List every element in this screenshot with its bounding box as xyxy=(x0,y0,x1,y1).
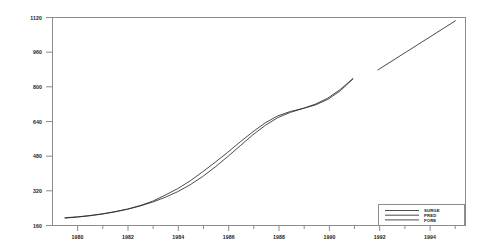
y-axis-labels: 1120 960 800 640 480 320 160 xyxy=(30,15,42,229)
series-line-pred xyxy=(65,79,353,218)
x-axis-labels: 1980 1982 1984 1986 1988 1990 1992 1994 xyxy=(72,234,437,240)
y-tick-label: 480 xyxy=(33,153,42,159)
legend: SURGE PRED FORE xyxy=(379,205,465,226)
y-tick-label: 800 xyxy=(33,84,42,90)
x-tick-label: 1988 xyxy=(273,234,285,240)
chart-figure: 1120 960 800 640 480 320 160 xyxy=(0,0,490,251)
data-series-group xyxy=(65,21,455,218)
y-tick-label: 640 xyxy=(33,119,42,125)
y-tick-label: 160 xyxy=(33,223,42,229)
x-tick-label: 1982 xyxy=(122,234,134,240)
y-tick-label: 320 xyxy=(33,188,42,194)
series-line-surge xyxy=(65,79,353,218)
x-tick-label: 1980 xyxy=(72,234,84,240)
x-tick-label: 1986 xyxy=(223,234,235,240)
x-tick-label: 1992 xyxy=(374,234,386,240)
y-tick-label: 1120 xyxy=(30,15,42,21)
chart-canvas: 1120 960 800 640 480 320 160 xyxy=(0,0,490,251)
legend-label-fore: FORE xyxy=(424,218,436,223)
x-tick-label: 1984 xyxy=(172,234,184,240)
x-axis-ticks xyxy=(78,226,456,232)
x-tick-label: 1994 xyxy=(424,234,436,240)
series-line-fore xyxy=(378,21,456,70)
x-tick-label: 1990 xyxy=(323,234,335,240)
y-tick-label: 960 xyxy=(33,49,42,55)
y-axis-ticks xyxy=(46,18,53,226)
plot-frame xyxy=(53,18,466,226)
